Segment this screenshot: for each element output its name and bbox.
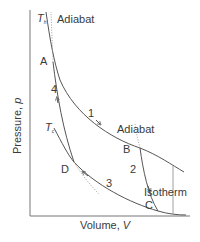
adiabat-extension-bottom [74,162,99,194]
point-d-label: D [61,164,69,175]
isotherm-label: Isotherm [144,187,187,198]
x-axis-label: Volume, V [80,220,130,231]
adiabat-extension-top [51,12,53,62]
cold-isotherm-label: Tc [45,122,54,133]
step-4-label: 4 [51,84,57,95]
arrow-step-1 [96,120,100,124]
point-c-label: C [145,200,153,211]
hot-isotherm-curve [46,12,184,172]
step-2-label: 2 [130,164,136,175]
arrow-step-4 [57,98,58,103]
point-b-label: B [123,144,130,155]
cold-isotherm-curve [54,128,186,215]
hot-isotherm-label: Th [37,13,47,24]
adiabat-label-top: Adiabat [57,14,94,25]
point-a-label: A [40,56,47,67]
carnot-cycle-diagram [0,0,200,242]
y-axis-label: Pressure, p [12,98,23,154]
adiabat-ad-curve [53,62,74,162]
adiabat-label-middle: Adiabat [117,124,154,135]
step-3-label: 3 [106,178,112,189]
step-1-label: 1 [88,108,94,119]
